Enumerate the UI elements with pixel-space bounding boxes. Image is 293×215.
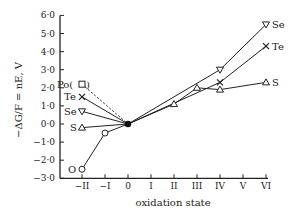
y-tick-label: 0·0: [41, 119, 56, 129]
y-tick-label: 2·0: [41, 83, 56, 93]
x-tick-label: I: [149, 181, 153, 191]
square-parenthesized-marker-icon: [79, 81, 85, 87]
chart-canvas: 6·05·04·03·02·01·00·0−1·0−2·0−3·0−II−I0I…: [0, 0, 293, 215]
series-label-te-end: Te: [272, 41, 284, 52]
origin-point: [125, 121, 132, 128]
y-tick-label: −2·0: [33, 155, 55, 165]
x-tick-label: II: [170, 181, 178, 191]
x-tick-label: VI: [260, 181, 271, 191]
x-tick-label: −I: [99, 181, 111, 191]
circle-marker-icon: [79, 166, 85, 172]
series-label-se: Se: [64, 106, 77, 117]
series-label-s-end: S: [272, 77, 279, 88]
y-tick-label: −3·0: [33, 173, 55, 183]
series-label-s: S: [70, 122, 77, 133]
triangle-up-marker-icon: [263, 79, 270, 85]
x-tick-label: −II: [75, 181, 90, 191]
series-label-se-end: Se: [272, 19, 285, 30]
y-axis-label: −ΔG/F = nE, V: [13, 61, 24, 138]
x-tick-label: III: [192, 181, 203, 191]
y-tick-label: 5·0: [41, 29, 56, 39]
cross-marker-icon: [263, 43, 269, 49]
cross-marker-icon: [217, 79, 223, 85]
triangle-down-marker-icon: [217, 67, 224, 73]
series-lines: [82, 24, 266, 169]
series-line-se: [82, 24, 266, 124]
series-labels: OSSSeSeTeTePo(): [57, 19, 285, 175]
oxidation-state-chart: 6·05·04·03·02·01·00·0−1·0−2·0−3·0−II−I0I…: [0, 0, 293, 215]
series-line-te: [82, 46, 266, 124]
series-label-po-close: ): [86, 79, 90, 90]
triangle-up-marker-icon: [171, 101, 178, 107]
x-tick-label: 0: [125, 181, 131, 191]
y-tick-label: 6·0: [41, 10, 56, 20]
y-tick-label: 4·0: [41, 47, 56, 57]
series-label-o: O: [68, 164, 76, 175]
cross-marker-icon: [79, 94, 85, 100]
x-axis-label: oxidation state: [135, 197, 210, 208]
y-tick-label: 3·0: [41, 65, 56, 75]
series-label-te: Te: [64, 91, 76, 102]
y-tick-label: −1·0: [33, 137, 55, 147]
series-label-po: Po(: [57, 79, 73, 90]
x-tick-label: V: [239, 181, 247, 191]
y-tick-label: 1·0: [41, 101, 56, 111]
circle-marker-icon: [102, 130, 108, 136]
x-tick-label: IV: [215, 181, 226, 191]
